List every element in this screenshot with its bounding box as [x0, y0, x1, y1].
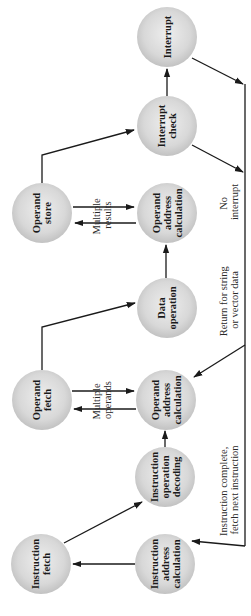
node-data-operation: Dataoperation	[137, 278, 197, 338]
label-no-interrupt: No interrupt	[218, 184, 240, 220]
label-multiple-operands: Multiple operands	[91, 381, 113, 420]
node-operand-address-calc-bottom: Operandaddresscalculation	[136, 370, 196, 430]
edge-if-to-iod	[64, 502, 142, 543]
edge-complete-to-instruction-address-calc	[192, 541, 245, 546]
node-interrupt-check: Interruptcheck	[137, 96, 197, 156]
node-operand-store: Operandstore	[12, 183, 72, 243]
edge-interrupt-check-to-loop	[192, 145, 243, 172]
node-instruction-fetch: Instructionfetch	[11, 534, 71, 594]
node-operand-fetch: Operandfetch	[12, 370, 72, 430]
node-label: Interrupt	[162, 15, 173, 58]
node-label: Instructionoperationdecoding	[149, 452, 182, 502]
nodes: InterruptInterruptcheckOperandstoreOpera…	[11, 7, 197, 594]
node-interrupt: Interrupt	[137, 7, 197, 67]
edge-return-to-operand-address-calc	[194, 345, 245, 377]
edge-of-to-data-operation	[42, 303, 135, 370]
label-multiple-results: Multiple results	[91, 196, 113, 235]
label-instruction-complete: Instruction complete, fetch next instruc…	[218, 444, 240, 536]
instruction-cycle-state-diagram: InterruptInterruptcheckOperandstoreOpera…	[0, 0, 251, 616]
label-return-for-string: Return for string or vector data	[218, 264, 240, 337]
edge-interrupt-to-loop	[192, 58, 243, 84]
node-operand-address-calc-top: Operandaddresscalculation	[137, 183, 197, 243]
edge-os-to-interrupt-check	[42, 130, 134, 183]
node-instruction-address-calc: Instructionaddresscalculation	[135, 534, 195, 594]
node-instruction-operation-decoding: Instructionoperationdecoding	[135, 447, 195, 507]
